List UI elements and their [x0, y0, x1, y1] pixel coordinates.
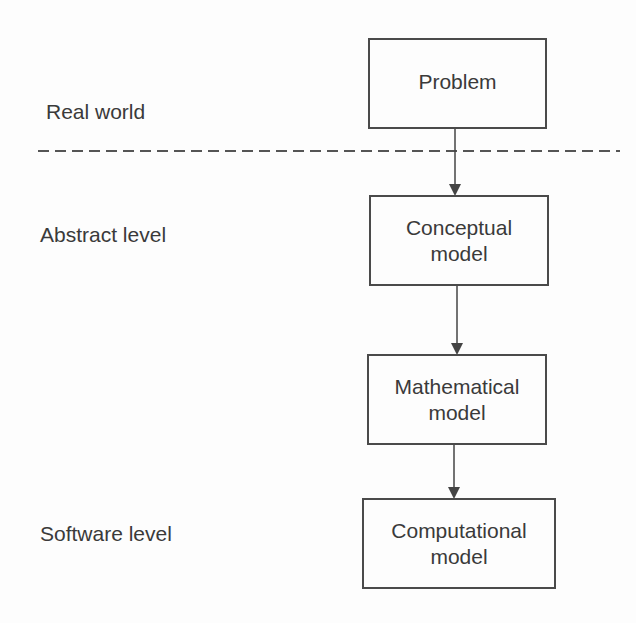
box-computational-line2: model [430, 544, 487, 570]
box-conceptual-model: Conceptual model [369, 195, 549, 286]
box-conceptual-line1: Conceptual [406, 215, 512, 241]
box-computational-model: Computational model [362, 498, 556, 589]
box-computational-line1: Computational [391, 518, 526, 544]
box-mathematical-model: Mathematical model [367, 354, 547, 445]
level-label-real-world: Real world [46, 100, 145, 124]
box-mathematical-line2: model [428, 400, 485, 426]
box-problem: Problem [368, 38, 547, 129]
box-problem-label: Problem [418, 69, 496, 95]
level-label-abstract: Abstract level [40, 223, 166, 247]
box-conceptual-line2: model [430, 241, 487, 267]
level-label-software: Software level [40, 522, 172, 546]
box-mathematical-line1: Mathematical [395, 374, 520, 400]
